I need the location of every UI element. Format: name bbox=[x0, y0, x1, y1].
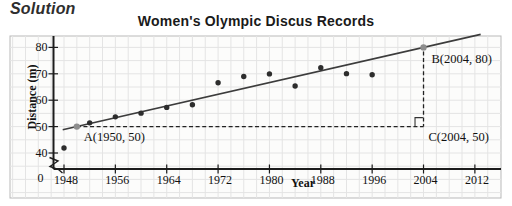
data-point bbox=[138, 110, 143, 115]
x-tick-label: 2004 bbox=[414, 173, 438, 187]
data-point bbox=[113, 114, 118, 119]
annotation-label-a: A(1950, 50) bbox=[84, 130, 145, 144]
annotation-label-c: C(2004, 50) bbox=[429, 130, 489, 144]
page: 1948195619641972198019881996200420124050… bbox=[0, 0, 512, 206]
data-point bbox=[267, 71, 272, 76]
x-axis-title: Year bbox=[291, 176, 315, 191]
chart-title: Women's Olympic Discus Records bbox=[0, 13, 512, 29]
data-point bbox=[61, 145, 66, 150]
x-tick-label: 2012 bbox=[465, 173, 489, 187]
x-tick-label: 1980 bbox=[259, 173, 283, 187]
x-tick-label: 1964 bbox=[157, 173, 181, 187]
x-tick-label: 1948 bbox=[54, 173, 78, 187]
x-tick-label: 1996 bbox=[362, 173, 386, 187]
y-tick-label: 80 bbox=[36, 40, 48, 54]
data-point bbox=[292, 83, 297, 88]
chart-canvas: 1948195619641972198019881996200420124050… bbox=[0, 0, 512, 206]
x-tick-label: 1972 bbox=[208, 173, 232, 187]
data-point bbox=[241, 74, 246, 79]
x-tick-label: 1956 bbox=[105, 173, 129, 187]
point-b-marker bbox=[420, 44, 426, 50]
y-tick-label: 40 bbox=[36, 146, 48, 160]
point-a-marker bbox=[74, 123, 80, 129]
data-point bbox=[344, 71, 349, 76]
data-point bbox=[190, 102, 195, 107]
data-point bbox=[369, 72, 374, 77]
annotation-label-b: B(2004, 80) bbox=[432, 52, 492, 66]
data-point bbox=[87, 120, 92, 125]
origin-label: 0 bbox=[38, 171, 44, 185]
data-point bbox=[215, 80, 220, 85]
y-axis-title: Distance (m) bbox=[25, 65, 40, 130]
data-point bbox=[164, 105, 169, 110]
data-point bbox=[318, 65, 323, 70]
